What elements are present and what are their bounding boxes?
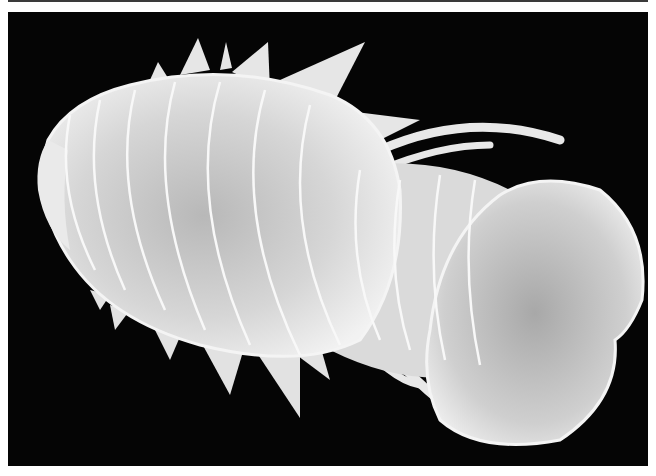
micrograph-frame bbox=[8, 12, 648, 466]
isopod-illustration bbox=[8, 12, 648, 466]
top-rule bbox=[8, 0, 648, 2]
